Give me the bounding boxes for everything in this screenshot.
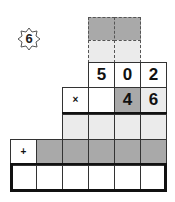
empty-cell <box>88 87 115 113</box>
carry-cell[interactable] <box>88 40 115 63</box>
partial-product-1-cell[interactable] <box>88 114 115 140</box>
partial-product-1-cell[interactable] <box>62 114 89 140</box>
result-bottom-border <box>10 189 167 192</box>
partial-product-2-cell[interactable] <box>140 139 167 165</box>
partial-product-1-cell[interactable] <box>114 114 141 140</box>
problem-number-badge: 6 <box>17 27 41 51</box>
result-cell[interactable] <box>114 165 141 191</box>
multiplicand-digit: 0 <box>114 62 141 88</box>
result-cell[interactable] <box>62 165 89 191</box>
result-cell[interactable] <box>10 165 37 191</box>
carry-cell[interactable] <box>114 40 141 63</box>
multiplier-digit: 6 <box>140 87 167 113</box>
multiply-sign: × <box>62 87 89 113</box>
partial-product-2-cell[interactable] <box>36 139 63 165</box>
partial-product-2-cell[interactable] <box>88 139 115 165</box>
multiplier-digit: 4 <box>114 87 141 113</box>
result-cell[interactable] <box>88 165 115 191</box>
result-cell[interactable] <box>36 165 63 191</box>
partial-product-1-cell[interactable] <box>140 114 167 140</box>
add-sign: + <box>10 139 37 165</box>
result-cell[interactable] <box>140 165 167 191</box>
result-right-border <box>164 163 167 192</box>
partial-product-2-cell[interactable] <box>114 139 141 165</box>
problem-number: 6 <box>17 27 41 51</box>
partial-product-2-cell[interactable] <box>62 139 89 165</box>
multiplicand-digit: 5 <box>88 62 115 88</box>
multiplicand-digit: 2 <box>140 62 167 88</box>
result-left-border <box>10 163 13 192</box>
